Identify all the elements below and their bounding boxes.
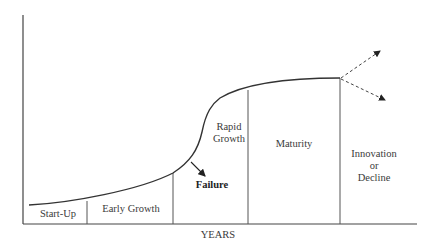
failure-label: Failure xyxy=(190,179,234,191)
stage-label-innovation-2: or xyxy=(344,160,404,172)
stage-label-rapid-growth-1: Rapid xyxy=(210,121,248,133)
decline-arrow xyxy=(341,79,385,100)
stage-label-early-growth: Early Growth xyxy=(90,203,172,215)
stage-label-innovation-1: Innovation xyxy=(344,148,404,160)
stage-label-rapid-growth-2: Growth xyxy=(210,133,248,145)
innovation-arrow xyxy=(341,51,380,78)
stage-label-maturity: Maturity xyxy=(256,138,332,150)
stage-label-innovation-3: Decline xyxy=(344,172,404,184)
failure-arrow xyxy=(191,162,205,176)
stage-label-startup: Start-Up xyxy=(31,208,85,220)
x-axis-label: YEARS xyxy=(190,229,246,241)
